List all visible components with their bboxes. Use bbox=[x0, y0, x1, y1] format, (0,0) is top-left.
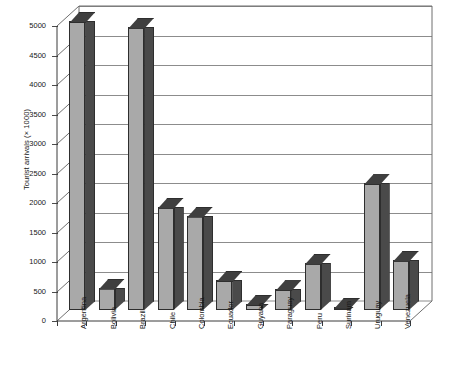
bar-front-face bbox=[364, 183, 380, 310]
x-axis-label-paraguay: Paraguay bbox=[285, 297, 294, 329]
bar-brazil[interactable] bbox=[128, 18, 156, 321]
x-axis-label-colombia: Colombia bbox=[197, 297, 206, 329]
x-axis-label-brazil: Brazil bbox=[138, 310, 147, 329]
bar-chart: Tourist arrivals (× 1000) 05001000150020… bbox=[0, 0, 456, 365]
x-axis-label-chile: Chile bbox=[168, 312, 177, 329]
bar-peru[interactable] bbox=[305, 254, 333, 321]
bar-front-face bbox=[69, 21, 85, 310]
bar-front-face bbox=[128, 27, 144, 310]
x-axis-label-ecuador: Ecuador bbox=[226, 301, 235, 329]
bar-front-face bbox=[305, 263, 321, 310]
bar-side-face bbox=[380, 183, 390, 310]
bar-chile[interactable] bbox=[158, 198, 186, 321]
x-axis-label-bolivia: Bolivia bbox=[109, 307, 118, 329]
bar-side-face bbox=[85, 21, 95, 310]
x-axis-tick-mark bbox=[57, 321, 58, 326]
bar-side-face bbox=[321, 263, 331, 310]
bar-front-face bbox=[158, 207, 174, 310]
bar-uruguay[interactable] bbox=[364, 174, 392, 321]
x-axis-label-surinam: Surinam bbox=[344, 301, 353, 329]
x-axis-label-guyana: Guyana bbox=[256, 303, 265, 329]
x-axis-label-venezuela: Venezuela bbox=[403, 294, 412, 329]
x-axis-label-peru: Peru bbox=[315, 313, 324, 329]
bar-front-face bbox=[187, 216, 203, 310]
x-axis-label-argentina: Argentina bbox=[79, 297, 88, 329]
bar-side-face bbox=[203, 216, 213, 310]
bar-side-face bbox=[174, 207, 184, 310]
bar-argentina[interactable] bbox=[69, 12, 97, 321]
x-axis-label-uruguay: Uruguay bbox=[373, 301, 382, 329]
bar-side-face bbox=[144, 27, 154, 310]
